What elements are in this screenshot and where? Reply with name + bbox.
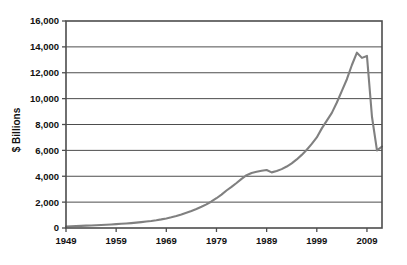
- x-tick-label: 1999: [306, 235, 327, 246]
- x-tick-label: 1979: [206, 235, 227, 246]
- y-tick-label: 6,000: [35, 145, 59, 156]
- y-tick-label: 16,000: [30, 15, 59, 26]
- y-axis-ticks: 02,0004,0006,0008,00010,00012,00014,0001…: [30, 15, 66, 233]
- y-tick-label: 10,000: [30, 93, 59, 104]
- data-line-0: [66, 53, 382, 227]
- x-axis-ticks: 1949195919691979198919992009: [55, 228, 377, 246]
- y-tick-label: 14,000: [30, 41, 59, 52]
- y-tick-label: 12,000: [30, 67, 59, 78]
- x-tick-label: 1949: [55, 235, 76, 246]
- x-tick-label: 2009: [356, 235, 377, 246]
- line-chart: 02,0004,0006,0008,00010,00012,00014,0001…: [0, 0, 407, 265]
- x-tick-label: 1959: [106, 235, 127, 246]
- x-tick-label: 1969: [156, 235, 177, 246]
- series-group: [66, 53, 382, 227]
- y-tick-label: 4,000: [35, 171, 59, 182]
- y-tick-label: 0: [54, 222, 59, 233]
- y-axis-title: $ Billions: [11, 107, 22, 152]
- y-tick-label: 2,000: [35, 197, 59, 208]
- gridlines-group: [66, 47, 382, 202]
- x-tick-label: 1989: [256, 235, 277, 246]
- chart-container: 02,0004,0006,0008,00010,00012,00014,0001…: [0, 0, 407, 265]
- y-tick-label: 8,000: [35, 119, 59, 130]
